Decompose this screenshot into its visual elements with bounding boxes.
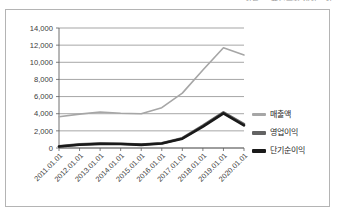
legend-item[interactable]: 매출액 [252,107,326,122]
y-tick-label: 8,000 [34,75,53,84]
series-line-3 [59,113,244,146]
legend-item[interactable]: 영업이익 [252,125,326,140]
legend-swatch-icon [252,131,266,135]
chart-frame: 02,0004,0006,0008,00010,00012,00014,000 … [5,9,330,207]
chart-screenshot: 자료: 금융감독원 전자공시 02,0004,0006,0008,00010,0… [0,0,340,217]
x-axis [59,148,244,151]
y-tick-label: 4,000 [34,109,53,118]
gridlines [59,28,244,148]
y-tick-label: 14,000 [30,24,53,33]
y-tick-label: 0 [49,144,53,153]
y-tick-label: 12,000 [30,41,53,50]
y-tick-label: 10,000 [30,58,53,67]
y-tick-labels: 02,0004,0006,0008,00010,00012,00014,000 [30,24,53,153]
chart-legend: 매출액영업이익단기순이익 [252,107,326,161]
legend-swatch-icon [252,113,266,116]
legend-item-label: 매출액 [270,111,291,119]
legend-swatch-icon [252,149,266,153]
top-caption: 자료: 금융감독원 전자공시 [245,0,332,1]
y-tick-label: 6,000 [34,92,53,101]
y-axis [56,28,59,148]
legend-item-label: 단기순이익 [270,147,305,155]
y-tick-label: 2,000 [34,127,53,136]
x-tick-labels: 2011.01.012012.01.012013.01.012014.01.01… [32,151,249,184]
legend-item[interactable]: 단기순이익 [252,143,326,158]
series-line-1 [59,48,244,117]
legend-item-label: 영업이익 [270,129,298,137]
